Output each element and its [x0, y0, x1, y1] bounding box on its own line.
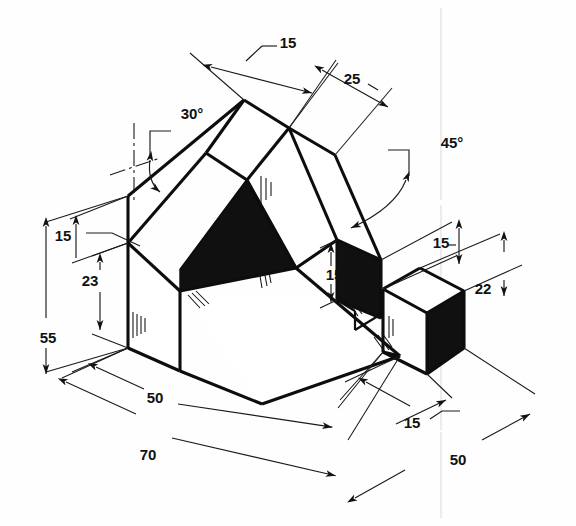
dim-label-right-15: 15 [433, 234, 450, 251]
dim-label-angle-30: 30° [181, 105, 204, 122]
dim-label-angle-45: 45° [441, 134, 464, 151]
dim-label-top-15: 15 [280, 34, 297, 51]
solid-object [125, 100, 464, 404]
technical-drawing-canvas: 15 25 30° 45° [0, 0, 576, 526]
dim-label-left-15: 15 [55, 227, 72, 244]
dim-label-left-55: 55 [40, 329, 57, 346]
dim-label-bottom-50: 50 [147, 389, 164, 406]
dimension-left-23: 23 [82, 243, 128, 348]
dim-label-left-23: 23 [82, 272, 99, 289]
dim-label-right-22: 22 [475, 280, 492, 297]
isometric-drawing: 15 25 30° 45° [0, 0, 576, 526]
dimension-bottom-right-50: 50 [338, 348, 535, 498]
dim-label-bottom-right-50: 50 [450, 451, 467, 468]
dim-label-top-25: 25 [344, 70, 361, 87]
dim-label-notch-15: 15 [326, 266, 343, 283]
object-light-faces [125, 100, 464, 404]
dimension-angle-45: 45° [351, 134, 463, 228]
dim-label-bottom-70: 70 [140, 446, 157, 463]
